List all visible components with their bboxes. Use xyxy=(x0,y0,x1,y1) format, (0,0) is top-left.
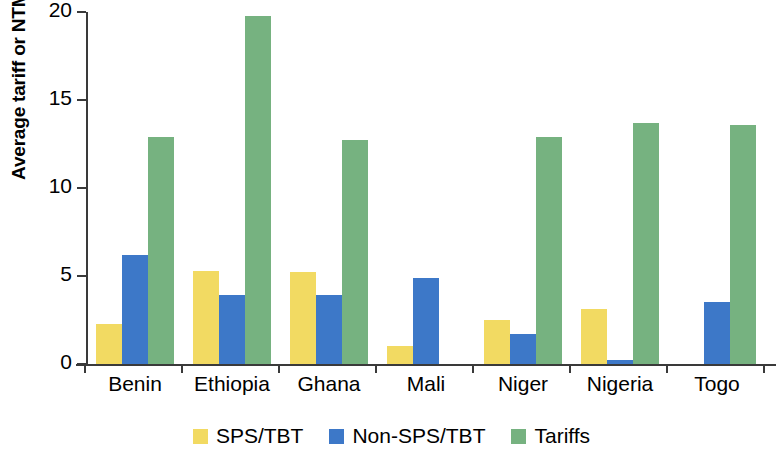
bar xyxy=(633,123,659,364)
y-tick-label: 5 xyxy=(28,262,72,286)
bar xyxy=(413,278,439,364)
bar xyxy=(581,309,607,364)
bar-group xyxy=(193,12,271,364)
y-tick-mark xyxy=(77,275,86,277)
bar-group xyxy=(678,12,756,364)
legend-item: Non-SPS/TBT xyxy=(329,424,485,448)
y-tick-mark xyxy=(77,187,86,189)
y-axis-line xyxy=(86,12,88,364)
legend-item: SPS/TBT xyxy=(193,424,304,448)
bar xyxy=(510,334,536,364)
legend-label: SPS/TBT xyxy=(216,424,304,448)
bar-group xyxy=(96,12,174,364)
bar xyxy=(387,346,413,364)
bar xyxy=(245,16,271,364)
legend-swatch-icon xyxy=(193,429,208,444)
bar xyxy=(122,255,148,364)
bar xyxy=(342,140,368,364)
bar xyxy=(730,125,756,364)
y-tick-label: 20 xyxy=(28,0,72,22)
y-tick-label: 15 xyxy=(28,86,72,110)
legend-label: Tariffs xyxy=(534,424,590,448)
bar-chart: Average tariff or NTM AVE (%) 05101520 B… xyxy=(0,0,783,453)
y-tick-label: 0 xyxy=(28,350,72,374)
bar xyxy=(193,271,219,364)
bar-group xyxy=(387,12,465,364)
y-tick-mark xyxy=(77,11,86,13)
legend-item: Tariffs xyxy=(511,424,590,448)
x-axis-category-label: Togo xyxy=(658,372,776,396)
bar xyxy=(316,295,342,364)
bar xyxy=(148,137,174,364)
bar xyxy=(607,360,633,364)
y-axis-title: Average tariff or NTM AVE (%) xyxy=(2,0,36,234)
y-tick-mark xyxy=(77,99,86,101)
y-tick-label: 10 xyxy=(28,174,72,198)
bar xyxy=(219,295,245,364)
legend-swatch-icon xyxy=(329,429,344,444)
legend-swatch-icon xyxy=(511,429,526,444)
bar xyxy=(96,324,122,364)
chart-legend: SPS/TBTNon-SPS/TBTTariffs xyxy=(0,424,783,448)
bar-group xyxy=(290,12,368,364)
legend-label: Non-SPS/TBT xyxy=(352,424,485,448)
bar xyxy=(536,137,562,364)
bar-group xyxy=(484,12,562,364)
bar xyxy=(704,302,730,364)
plot-area: 05101520 xyxy=(86,12,776,364)
bar-group xyxy=(581,12,659,364)
bar xyxy=(290,272,316,364)
bar xyxy=(484,320,510,364)
